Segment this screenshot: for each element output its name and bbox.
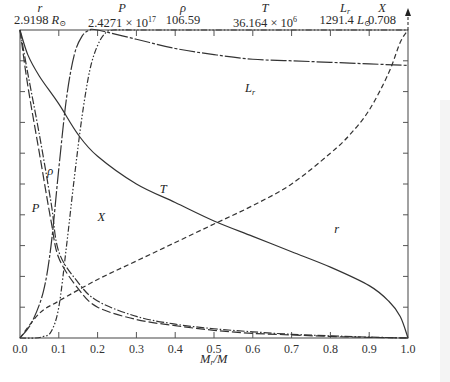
x-axis-label-m: M — [200, 352, 210, 366]
x-tick-label: 0.6 — [245, 342, 260, 356]
x-tick-label: 1.0 — [401, 342, 416, 356]
r-curve-arrow-icon — [405, 8, 411, 16]
x-tick-label: 0.1 — [51, 342, 66, 356]
chart-plot: 0.00.10.20.30.40.50.60.70.80.91.0rPρTLrX — [0, 0, 450, 382]
x-axis-label-rest: /M — [214, 352, 228, 366]
x-tick-label: 0.2 — [90, 342, 105, 356]
x-tick-label: 0.9 — [362, 342, 377, 356]
x-tick-label: 0.8 — [323, 342, 338, 356]
curve-label-L-r: Lr — [244, 81, 256, 97]
curve-label-X: X — [97, 210, 107, 224]
curve-T — [20, 30, 408, 338]
x-axis-label: Mr/M — [200, 352, 227, 367]
curve-rho — [20, 30, 408, 338]
x-tick-label: 0.7 — [284, 342, 299, 356]
x-tick-label: 0.3 — [129, 342, 144, 356]
curve-L-r — [20, 29, 408, 338]
x-tick-label: 0.4 — [168, 342, 183, 356]
curve-label-T: T — [160, 182, 168, 196]
curve-label-rho: ρ — [46, 164, 53, 178]
plot-frame — [20, 30, 408, 338]
curve-X — [20, 30, 408, 338]
curve-P — [20, 30, 408, 338]
curve-label-P: P — [31, 201, 40, 215]
curve-r — [20, 30, 408, 338]
x-tick-label: 0.0 — [13, 342, 28, 356]
curve-label-r: r — [334, 222, 339, 236]
